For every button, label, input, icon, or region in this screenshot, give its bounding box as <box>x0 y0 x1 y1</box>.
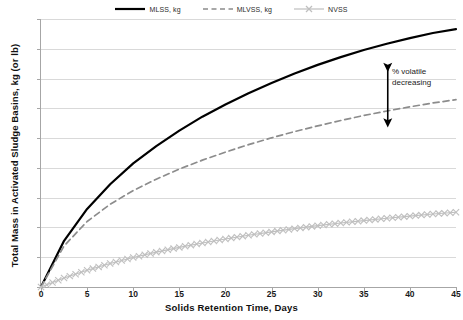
annotation-line-1: % volatile <box>392 66 462 77</box>
annotation-volatile-decreasing: % volatile decreasing <box>392 66 462 88</box>
y-axis-title: Total Mass in Activated Sludge Basins, k… <box>9 16 20 296</box>
series-overlay <box>0 0 463 320</box>
x-tick-label: 10 <box>128 289 137 299</box>
series-line-nvss <box>41 212 456 287</box>
x-tick-label: 5 <box>85 289 90 299</box>
chart-figure: MLSS, kg MLVSS, kg NVSS % volatile <box>0 0 463 320</box>
x-tick-label: 40 <box>405 289 414 299</box>
x-tick-labels: 051015202530354045 <box>0 289 463 303</box>
x-tick-label: 25 <box>267 289 276 299</box>
x-tick-label: 0 <box>39 289 44 299</box>
x-tick-label: 20 <box>221 289 230 299</box>
annotation-line-2: decreasing <box>392 77 462 88</box>
x-axis-title: Solids Retention Time, Days <box>0 302 463 313</box>
series-markers-nvss <box>38 209 459 290</box>
x-tick-label: 15 <box>175 289 184 299</box>
x-tick-label: 30 <box>313 289 322 299</box>
series-line-mlvss-kg <box>41 100 456 287</box>
x-tick-label: 45 <box>451 289 460 299</box>
x-tick-label: 35 <box>359 289 368 299</box>
